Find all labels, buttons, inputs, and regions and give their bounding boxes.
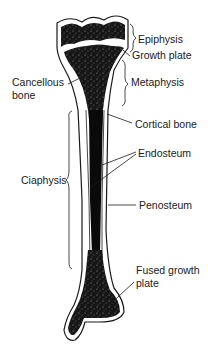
metaphysis-bracket	[122, 60, 128, 106]
label-epiphysis: Epiphysis	[138, 33, 183, 45]
label-endosteum: Endosteum	[138, 147, 191, 159]
label-penosteum: Penosteum	[139, 199, 192, 211]
label-ciaphysis: Ciaphysis	[21, 174, 67, 186]
bone-diagram: Epiphysis Growth plate Metaphysis Cancel…	[0, 0, 208, 357]
label-cancellous-bone-line2: bone	[12, 89, 35, 101]
label-fused-growth-plate-line2: plate	[136, 277, 159, 289]
epiphysis-bracket	[130, 24, 136, 52]
label-fused-growth-plate-line1: Fused growth	[136, 264, 200, 276]
label-metaphysis: Metaphysis	[131, 76, 184, 88]
label-growth-plate: Growth plate	[132, 49, 192, 61]
label-cortical-bone: Cortical bone	[135, 118, 197, 130]
ciaphysis-bracket	[66, 111, 72, 269]
cortical-leader	[107, 114, 132, 123]
label-cancellous-bone-line1: Cancellous	[12, 76, 64, 88]
